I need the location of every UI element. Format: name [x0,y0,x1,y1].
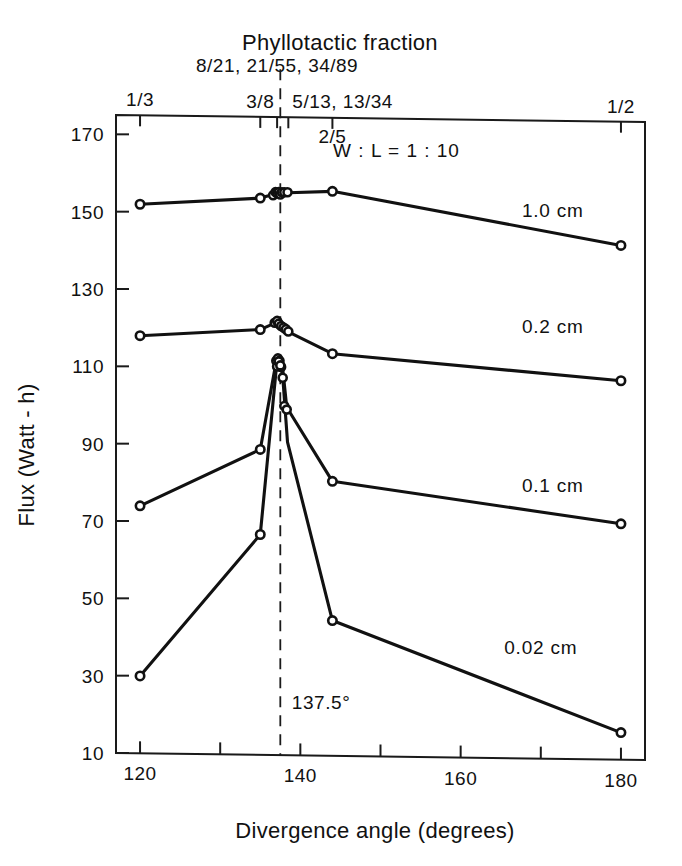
data-point [328,477,336,485]
data-point [283,406,291,414]
top-axis-tick-label: 1/2 [607,96,635,117]
y-axis-tick-label: 30 [82,666,104,687]
series-label-0-1-cm: 0.1 cm [522,475,584,496]
data-point [256,445,264,453]
data-point [617,241,625,249]
series-label-1-0-cm: 1.0 cm [522,200,584,221]
top-axis-tick-labels: 1/33/88/21, 21/55, 34/895/13, 13/342/51/… [126,55,635,147]
left-axis-ticks [116,134,129,753]
top-axis-tick-label: 8/21, 21/55, 34/89 [196,55,358,76]
data-point [617,377,625,385]
data-point [136,502,144,510]
y-axis-tick-label: 150 [71,202,104,223]
y-axis-tick-label: 110 [72,356,104,377]
top-axis-title: Phyllotactic fraction [242,30,438,55]
data-point [328,616,336,624]
phyllotaxis-flux-chart: Phyllotactic fraction 1/33/88/21, 21/55,… [0,0,682,866]
data-point [328,187,336,195]
data-point [284,327,292,335]
data-point [136,332,144,340]
y-axis-tick-label: 170 [71,124,104,145]
data-point [256,194,264,202]
data-point [617,520,625,528]
top-axis-tick-label: 5/13, 13/34 [292,91,393,112]
data-point [276,361,284,369]
x-axis-tick-label: 160 [444,768,477,789]
y-axis-tick-labels: 1030507090110130150170 [71,124,104,764]
data-point [256,325,264,333]
data-point [328,350,336,358]
data-point [617,728,625,736]
data-point [256,530,264,538]
data-point [136,200,144,208]
data-point [279,374,287,382]
chart-annotations: W : L = 1 : 10137.5° [292,140,460,712]
curve-0-02-cm [140,361,621,733]
series-labels: 1.0 cm0.2 cm0.1 cm0.02 cm [504,200,584,658]
data-point [284,188,292,196]
x-axis-tick-labels: 120140160180 [123,763,637,790]
x-axis-tick-label: 180 [604,770,637,791]
y-axis-tick-label: 90 [82,434,104,455]
chart-svg: Phyllotactic fraction 1/33/88/21, 21/55,… [0,0,682,866]
curve-0-1-cm [140,359,621,524]
top-axis-tick-label: 3/8 [246,91,274,112]
y-axis-tick-label: 70 [82,511,104,532]
annotation-golden-angle: 137.5° [292,692,351,713]
y-axis-tick-label: 130 [71,279,104,300]
series-label-0-02-cm: 0.02 cm [504,637,577,658]
x-axis-tick-label: 120 [123,763,156,784]
x-axis-title: Divergence angle (degrees) [235,818,514,843]
top-axis-tick-label: 1/3 [126,89,154,110]
series-label-0-2-cm: 0.2 cm [522,316,584,337]
y-axis-tick-label: 50 [82,588,104,609]
y-axis-tick-label: 10 [82,743,104,764]
annotation-ratio: W : L = 1 : 10 [333,140,460,161]
y-axis-title: Flux (Watt - h) [14,383,39,526]
data-point [136,672,144,680]
x-axis-tick-label: 140 [284,765,317,786]
